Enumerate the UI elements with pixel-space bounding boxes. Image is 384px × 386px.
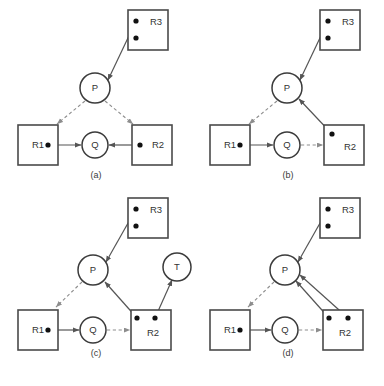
resource-label: R1 (32, 324, 44, 335)
resource-node-a-R2: R2 (132, 125, 172, 165)
process-label: Q (89, 324, 96, 335)
process-node-d-P: P (270, 255, 300, 285)
resource-instance-dot (325, 35, 330, 40)
resource-node-c-R1: R1 (18, 310, 58, 350)
resource-instance-dot (45, 327, 50, 332)
resource-node-c-R3: R3 (128, 198, 168, 238)
resource-label: R3 (342, 204, 354, 215)
edge-a-P-to-R2 (105, 101, 133, 124)
process-label: P (92, 82, 98, 93)
process-node-c-T: T (163, 253, 191, 281)
resource-node-a-R1: R1 (18, 125, 58, 165)
diagram-canvas: R1R2R3PQR1R2R3PQR1R2R3PQTR1R2R3PQ (a)(b)… (0, 0, 384, 386)
process-label: P (282, 264, 288, 275)
process-node-b-P: P (272, 73, 302, 103)
resource-node-d-R1: R1 (210, 310, 250, 350)
resource-instance-dot (325, 206, 330, 211)
resource-node-d-R3: R3 (320, 198, 360, 238)
edge-c-P-to-R1 (56, 282, 82, 307)
process-label: P (284, 82, 290, 93)
resource-node-b-R1: R1 (210, 125, 250, 165)
process-label: Q (283, 139, 290, 150)
resource-node-b-R3: R3 (320, 10, 360, 50)
resource-node-d-R2: R2 (323, 310, 363, 350)
resource-label: R1 (32, 139, 44, 150)
resource-node-c-R2: R2 (131, 310, 171, 350)
process-node-c-Q: Q (80, 317, 106, 343)
resource-instance-dot (345, 315, 350, 320)
resource-instance-dot (326, 315, 331, 320)
resource-label: R2 (152, 139, 164, 150)
panel-caption-b: (b) (283, 170, 294, 180)
resource-instance-dot (133, 206, 138, 211)
resource-instance-dot (325, 223, 330, 228)
process-node-b-Q: Q (274, 132, 300, 158)
resource-instance-dot (329, 131, 334, 136)
panel-caption-d: (d) (283, 348, 294, 358)
resource-label: R3 (342, 16, 354, 27)
resource-instance-dot (45, 142, 50, 147)
resource-label: R2 (339, 327, 351, 338)
resource-label: R2 (344, 141, 356, 152)
process-node-a-P: P (80, 73, 110, 103)
panel-caption-a: (a) (91, 170, 102, 180)
resource-label: R3 (150, 16, 162, 27)
process-node-c-P: P (78, 255, 108, 285)
resource-label: R1 (224, 324, 236, 335)
resource-label: R2 (147, 327, 159, 338)
process-label: T (174, 261, 180, 272)
resource-node-b-R2: R2 (324, 125, 364, 165)
resource-instance-dot (325, 18, 330, 23)
resource-allocation-figure: R1R2R3PQR1R2R3PQR1R2R3PQTR1R2R3PQ (a)(b)… (0, 0, 384, 386)
process-label: P (90, 264, 96, 275)
resource-label: R1 (224, 139, 236, 150)
process-node-a-Q: Q (82, 132, 108, 158)
resource-instance-dot (152, 315, 157, 320)
panel-caption-c: (c) (91, 348, 102, 358)
edge-b-P-to-R1 (249, 101, 277, 124)
process-node-d-Q: Q (272, 317, 298, 343)
resource-node-a-R3: R3 (128, 10, 168, 50)
resource-instance-dot (133, 223, 138, 228)
resource-instance-dot (237, 327, 242, 332)
edge-a-P-to-R1 (57, 101, 85, 124)
resource-label: R3 (150, 204, 162, 215)
resource-instance-dot (133, 35, 138, 40)
resource-instance-dot (237, 142, 242, 147)
resource-instance-dot (137, 142, 142, 147)
resource-instance-dot (134, 315, 139, 320)
process-label: Q (281, 324, 288, 335)
resource-instance-dot (133, 18, 138, 23)
process-label: Q (91, 139, 98, 150)
edge-d-P-to-R1 (248, 282, 274, 307)
